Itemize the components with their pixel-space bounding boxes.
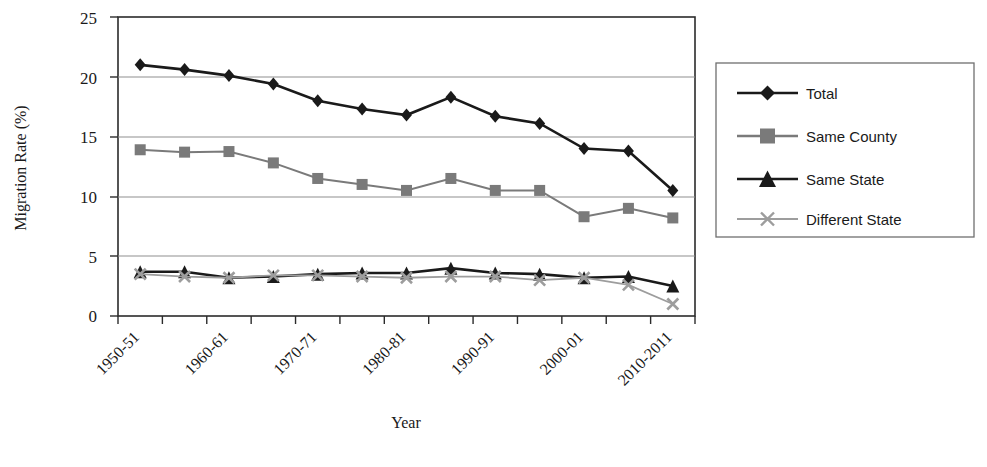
legend: Total Same County Same State Different S… — [716, 63, 974, 237]
y-tick-label: 0 — [89, 307, 98, 326]
square-marker-icon — [760, 129, 775, 144]
square-marker-icon — [268, 157, 279, 168]
y-tick-label: 15 — [80, 128, 97, 147]
square-marker-icon — [357, 179, 368, 190]
y-tick-label: 10 — [80, 188, 97, 207]
square-marker-icon — [312, 173, 323, 184]
x-axis-title: Year — [391, 414, 421, 431]
square-marker-icon — [490, 185, 501, 196]
square-marker-icon — [179, 147, 190, 158]
legend-item-different-state[interactable]: Different State — [737, 211, 902, 228]
square-marker-icon — [579, 211, 590, 222]
legend-label-same-county: Same County — [806, 128, 897, 145]
legend-label-same-state: Same State — [806, 171, 884, 188]
square-marker-icon — [623, 203, 634, 214]
square-marker-icon — [534, 185, 545, 196]
square-marker-icon — [401, 185, 412, 196]
square-marker-icon — [667, 212, 678, 223]
y-axis-title: Migration Rate (%) — [12, 105, 30, 230]
y-tick-label: 25 — [80, 9, 97, 28]
y-tick-label: 5 — [89, 248, 98, 267]
migration-rate-line-chart: Migration Rate (%) 25 20 15 10 5 0 — [0, 0, 987, 467]
square-marker-icon — [445, 173, 456, 184]
y-tick-label: 20 — [80, 69, 97, 88]
legend-label-total: Total — [806, 85, 838, 102]
legend-item-same-county[interactable]: Same County — [737, 128, 897, 145]
legend-label-different-state: Different State — [806, 211, 902, 228]
square-marker-icon — [135, 144, 146, 155]
square-marker-icon — [223, 146, 234, 157]
